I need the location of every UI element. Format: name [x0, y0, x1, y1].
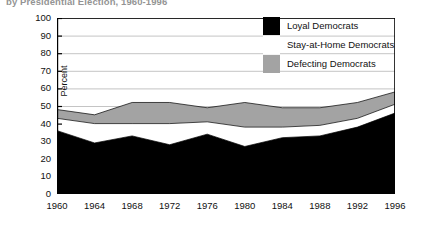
y-tick-label: 70 [15, 66, 51, 76]
y-tick-label: 30 [15, 136, 51, 146]
x-tick-label: 1968 [122, 201, 143, 211]
legend-label-stay-at-home: Stay-at-Home Democrats [287, 40, 394, 50]
x-tick-label: 1972 [159, 201, 180, 211]
legend-item-defecting-democrats: Defecting Democrats [263, 54, 419, 73]
y-tick-label: 10 [15, 172, 51, 182]
x-tick-label: 1976 [197, 201, 218, 211]
y-tick-label: 0 [15, 189, 51, 199]
y-tick-label: 90 [15, 31, 51, 41]
y-tick-label: 80 [15, 48, 51, 58]
y-tick-label: 50 [15, 101, 51, 111]
legend-label-loyal: Loyal Democrats [287, 21, 358, 31]
legend-item-stay-at-home-democrats: Stay-at-Home Democrats [263, 35, 419, 54]
y-tick-label: 100 [15, 13, 51, 23]
x-tick-label: 1964 [84, 201, 105, 211]
chart-title: by Presidential Election, 1960-1996 [6, 0, 406, 7]
x-tick-label: 1992 [347, 201, 368, 211]
legend-swatch-icon-defecting [263, 55, 280, 73]
x-tick-label: 1980 [234, 201, 255, 211]
y-tick-label: 60 [15, 84, 51, 94]
chart-legend: Loyal Democrats Stay-at-Home Democrats D… [263, 16, 419, 73]
x-tick-label: 1988 [309, 201, 330, 211]
legend-item-loyal-democrats: Loyal Democrats [263, 16, 419, 35]
y-tick-label: 20 [15, 154, 51, 164]
legend-label-defecting: Defecting Democrats [287, 59, 376, 69]
x-tick-label: 1996 [384, 201, 405, 211]
chart-container: by Presidential Election, 1960-1996 0102… [0, 0, 424, 227]
legend-swatch-icon-stay-at-home [263, 36, 280, 54]
y-axis-title: Percent [59, 41, 69, 121]
x-tick-label: 1984 [272, 201, 293, 211]
legend-swatch-icon-loyal [263, 17, 280, 35]
x-tick-label: 1960 [46, 201, 67, 211]
y-tick-label: 40 [15, 119, 51, 129]
